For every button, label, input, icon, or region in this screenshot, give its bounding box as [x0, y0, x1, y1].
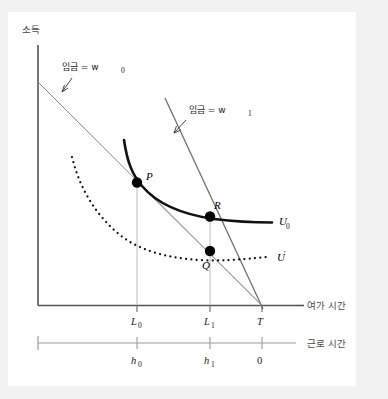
point-label-Q: Q — [202, 259, 210, 271]
axis-group — [38, 45, 296, 306]
indifference-curve-uprime-group — [72, 157, 270, 260]
wage-w1-annotation-group: 임금 = w 1 — [174, 104, 252, 133]
y-axis-label: 소득 — [22, 24, 40, 35]
compensated-budget-line — [137, 182, 262, 306]
leisure-tick-label-L1-group: L 1 — [203, 316, 215, 330]
work-tick-label-h1-subscript: 1 — [211, 360, 215, 369]
leisure-tick-label-L1-subscript: 1 — [211, 321, 215, 330]
point-R-marker[interactable] — [205, 211, 215, 221]
point-Q-marker[interactable] — [205, 246, 215, 256]
leisure-tick-label-T-group: T — [257, 316, 264, 327]
curve-label-uprime-group: U ′ — [277, 250, 286, 263]
leisure-tick-group — [137, 306, 262, 313]
leisure-tick-label-L0-subscript: 0 — [138, 321, 142, 330]
work-axis-group: 근로 시간 — [38, 336, 346, 350]
wage-w0-label: 임금 = w — [62, 61, 99, 72]
leisure-tick-label-T: T — [257, 316, 264, 327]
work-tick-label-h1-group: h 1 — [204, 355, 215, 369]
x-axis-label-group: 여가 시간 — [296, 300, 346, 311]
curve-label-uprime-prime: ′ — [284, 250, 286, 259]
wage-w0-leader-line — [62, 78, 72, 92]
point-P-marker[interactable] — [132, 177, 142, 187]
work-tick-label-h0-subscript: 0 — [138, 360, 142, 369]
wage-w0-annotation-group: 임금 = w 0 — [62, 61, 125, 92]
point-label-P: P — [145, 170, 153, 182]
wage-w1-label: 임금 = w — [189, 104, 226, 115]
drop-line-group — [137, 183, 210, 306]
indifference-curve-uprime — [72, 157, 270, 260]
work-tick-label-0: 0 — [257, 355, 262, 366]
work-tick-label-h0: h — [131, 355, 136, 366]
wage-w1-subscript: 1 — [248, 109, 252, 118]
leisure-tick-label-L0: L — [130, 316, 137, 327]
leisure-tick-label-L1: L — [203, 316, 210, 327]
curve-label-u0-subscript: 0 — [286, 222, 290, 231]
point-label-R: R — [213, 199, 221, 211]
labor-supply-diagram: P R Q U 0 U ′ 임금 = w 0 임금 = w 1 소득 — [0, 0, 388, 399]
secondary-axis-label: 근로 시간 — [307, 338, 346, 349]
work-tick-label-0-group: 0 — [257, 355, 262, 366]
curve-label-u0-group: U 0 — [279, 215, 290, 231]
x-axis-label: 여가 시간 — [307, 300, 346, 311]
figure-root: P R Q U 0 U ′ 임금 = w 0 임금 = w 1 소득 — [0, 0, 388, 399]
leisure-tick-label-L0-group: L 0 — [130, 316, 142, 330]
work-tick-label-h0-group: h 0 — [131, 355, 142, 369]
work-tick-label-h1: h — [204, 355, 209, 366]
compensated-budget-line-group — [137, 182, 262, 306]
wage-w0-subscript: 0 — [121, 66, 125, 75]
